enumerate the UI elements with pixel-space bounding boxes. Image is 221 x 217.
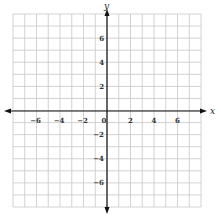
axes: x y (4, 1, 215, 214)
x-tick-label: 2 (128, 116, 133, 125)
coordinate-plane: x y −6−4−20246 642−2−4−6 (0, 0, 221, 217)
y-axis-label: y (103, 1, 110, 11)
y-tick-label: 2 (99, 82, 104, 91)
x-axis-right-arrow-icon (200, 109, 207, 114)
x-axis-label: x (210, 106, 215, 116)
x-tick-label: −4 (54, 116, 65, 125)
x-tick-label: 4 (152, 116, 157, 125)
y-tick-label: −4 (93, 154, 104, 163)
x-tick-label: −2 (77, 116, 88, 125)
y-axis-bottom-arrow-icon (105, 207, 110, 214)
x-tick-label: −6 (30, 116, 41, 125)
y-tick-label: 6 (99, 34, 104, 43)
x-axis-left-arrow-icon (4, 109, 11, 114)
y-tick-label: 4 (99, 58, 104, 67)
x-tick-labels: −6−4−20246 (30, 116, 180, 125)
x-tick-label: 6 (175, 116, 180, 125)
x-tick-label: 0 (102, 116, 107, 125)
y-tick-label: −6 (93, 178, 104, 187)
y-tick-label: −2 (93, 130, 104, 139)
